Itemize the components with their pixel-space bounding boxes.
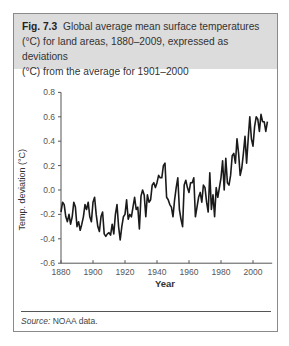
caption-divider bbox=[21, 311, 271, 312]
x-axis-label: Year bbox=[155, 278, 175, 289]
temperature-line bbox=[61, 114, 267, 240]
y-tick-label: 0.6 bbox=[43, 112, 55, 122]
y-axis-label: Temp. deviation (°C) bbox=[17, 149, 27, 231]
y-tick-label: 0.8 bbox=[43, 87, 55, 97]
source-text: NOAA data. bbox=[53, 316, 98, 326]
x-axis: 1880190019201940196019802000 bbox=[52, 260, 273, 277]
y-tick-label: -0.2 bbox=[40, 209, 55, 219]
x-tick-label: 1880 bbox=[52, 267, 71, 277]
line-chart: -0.6-0.4-0.20.00.20.40.60.8 188019001920… bbox=[14, 14, 279, 304]
figure-frame: Fig. 7.3 Global average mean surface tem… bbox=[13, 13, 278, 332]
y-tick-label: 0.4 bbox=[43, 136, 55, 146]
x-tick-label: 1980 bbox=[212, 267, 231, 277]
x-tick-label: 2000 bbox=[244, 267, 263, 277]
y-tick-label: 0.2 bbox=[43, 161, 55, 171]
source-note: Source: NOAA data. bbox=[21, 316, 98, 326]
source-label: Source: bbox=[21, 316, 50, 326]
y-tick-label: -0.4 bbox=[40, 234, 55, 244]
x-tick-label: 1920 bbox=[116, 267, 135, 277]
x-tick-label: 1900 bbox=[84, 267, 103, 277]
x-tick-label: 1940 bbox=[148, 267, 167, 277]
y-tick-label: 0.0 bbox=[43, 185, 55, 195]
y-axis: -0.6-0.4-0.20.00.20.40.60.8 bbox=[40, 87, 61, 268]
x-tick-label: 1960 bbox=[180, 267, 199, 277]
